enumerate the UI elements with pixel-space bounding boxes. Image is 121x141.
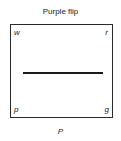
horizontal-line: [23, 72, 103, 74]
corner-label-bottom-left: p: [14, 105, 18, 114]
corner-label-top-left: w: [14, 28, 20, 37]
corner-label-top-right: r: [105, 28, 108, 37]
diagram-caption: P: [0, 127, 121, 136]
diagram-title: Purple flip: [0, 7, 121, 16]
diagram-box: w r p g: [10, 24, 113, 118]
corner-label-bottom-right: g: [105, 105, 109, 114]
